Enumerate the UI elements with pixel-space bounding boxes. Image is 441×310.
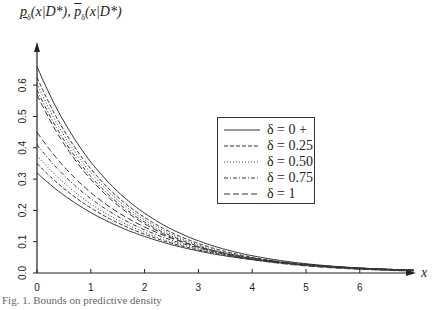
svg-text:1: 1 xyxy=(88,282,94,293)
legend-label: δ = 0.50 xyxy=(267,154,313,170)
legend-label: δ = 0.75 xyxy=(267,170,313,186)
legend-swatch xyxy=(224,191,260,197)
svg-text:4: 4 xyxy=(249,282,255,293)
legend-swatch xyxy=(224,127,260,133)
svg-text:0.1: 0.1 xyxy=(17,234,28,248)
svg-text:3: 3 xyxy=(196,282,202,293)
legend-item: δ = 0.25 xyxy=(224,138,313,154)
legend-item: δ = 1 xyxy=(224,186,296,202)
svg-text:6: 6 xyxy=(357,282,363,293)
chart-legend: δ = 0 +δ = 0.25δ = 0.50δ = 0.75δ = 1 xyxy=(217,117,315,204)
y-axis-label: pδ(x|D*), pδ(x|D*) xyxy=(20,4,122,22)
svg-text:5: 5 xyxy=(303,282,309,293)
svg-text:0.5: 0.5 xyxy=(17,109,28,123)
legend-swatch xyxy=(224,143,260,149)
legend-item: δ = 0.75 xyxy=(224,170,313,186)
figure-caption: Fig. 1. Bounds on predictive density xyxy=(2,294,162,306)
svg-text:0.0: 0.0 xyxy=(17,266,28,280)
svg-text:x: x xyxy=(420,265,428,280)
legend-swatch xyxy=(224,159,260,165)
legend-item: δ = 0.50 xyxy=(224,154,313,170)
legend-label: δ = 1 xyxy=(267,186,296,202)
svg-text:0.2: 0.2 xyxy=(17,203,28,217)
svg-text:2: 2 xyxy=(142,282,148,293)
svg-text:0: 0 xyxy=(34,282,40,293)
svg-text:0.6: 0.6 xyxy=(17,78,28,92)
svg-text:0.4: 0.4 xyxy=(17,140,28,154)
legend-item: δ = 0 + xyxy=(224,122,307,138)
legend-swatch xyxy=(224,175,260,181)
legend-label: δ = 0 + xyxy=(267,122,307,138)
legend-label: δ = 0.25 xyxy=(267,138,313,154)
svg-text:0.3: 0.3 xyxy=(17,172,28,186)
